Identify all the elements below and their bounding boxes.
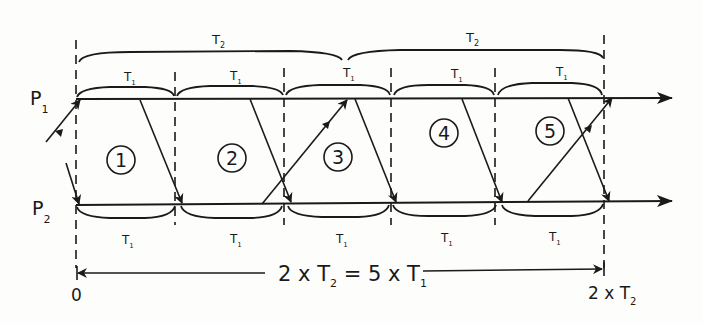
p2-t1-brace xyxy=(181,206,282,218)
p1-t1-label: T1 xyxy=(342,66,355,83)
p1-label: P1 xyxy=(30,87,48,116)
p2-t1-label: T1 xyxy=(548,230,561,247)
svg-text:2: 2 xyxy=(226,147,238,169)
message-arrow-up xyxy=(528,98,612,201)
message-arrow-down xyxy=(462,99,502,202)
p1-t1-brace xyxy=(286,85,390,95)
svg-text:5: 5 xyxy=(544,120,556,142)
svg-text:4: 4 xyxy=(438,122,450,144)
p1-t1-label: T1 xyxy=(123,70,136,87)
p1-timeline xyxy=(76,98,672,99)
p1-t1-label: T1 xyxy=(229,69,242,86)
t2-brace-2 xyxy=(348,50,603,60)
timing-diagram: T2 T2 P1 T1 T1 T1 T1 T1 P2 T1 T1 T1 T1 T… xyxy=(0,0,703,324)
axis-end-label: 2 x T2 xyxy=(588,283,636,307)
span-arrow-right xyxy=(423,269,602,271)
message-arrow-down xyxy=(250,99,291,202)
p1-t1-brace xyxy=(394,85,494,95)
t2-brace-1 xyxy=(79,51,342,62)
region-marker-2: 2 xyxy=(218,144,246,172)
p2-t1-brace xyxy=(77,206,175,218)
incoming-arrow-p2 xyxy=(66,163,79,204)
p2-t1-label: T1 xyxy=(121,233,134,250)
span-equation: 2 x T2 = 5 x T1 xyxy=(278,262,427,290)
p2-t1-brace xyxy=(393,205,496,216)
region-marker-1: 1 xyxy=(107,146,135,174)
region-marker-4: 4 xyxy=(430,119,458,147)
p2-t1-label: T1 xyxy=(440,231,453,248)
p1-t1-label: T1 xyxy=(450,67,463,84)
arrow-mid-head xyxy=(322,121,330,129)
region-marker-3: 3 xyxy=(324,143,352,171)
incoming-arrow-p1 xyxy=(46,100,80,142)
t2-label-2: T2 xyxy=(465,30,479,48)
svg-text:1: 1 xyxy=(115,149,127,171)
p2-t1-brace xyxy=(288,205,389,217)
p1-t1-brace xyxy=(77,87,174,97)
p1-t1-brace xyxy=(498,83,602,95)
p2-timeline xyxy=(76,201,672,205)
message-arrow-down xyxy=(355,99,396,202)
p1-t1-label: T1 xyxy=(555,65,568,82)
axis-start-label: 0 xyxy=(71,285,82,305)
p1-t1-brace xyxy=(177,86,283,96)
p2-t1-label: T1 xyxy=(335,232,348,249)
p2-label: P2 xyxy=(32,197,50,226)
p2-t1-label: T1 xyxy=(229,232,242,249)
t2-label-1: T2 xyxy=(211,32,225,50)
p2-t1-brace xyxy=(502,204,603,216)
svg-text:3: 3 xyxy=(332,146,344,168)
message-arrow-down xyxy=(568,98,609,201)
region-marker-5: 5 xyxy=(536,117,564,145)
